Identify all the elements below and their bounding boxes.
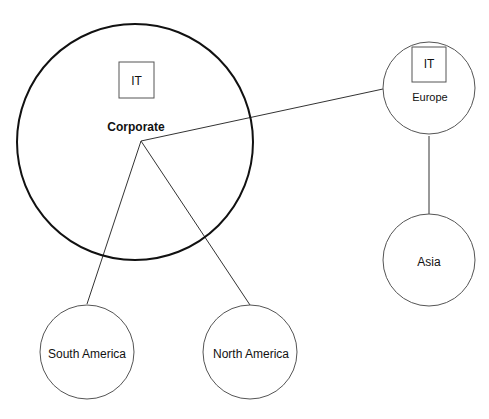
edge-corporate-europe [141, 89, 383, 141]
europe-it-label: IT [424, 57, 435, 71]
node-south-america[interactable]: South America [40, 305, 134, 399]
europe-label: Europe [412, 91, 447, 103]
org-diagram: IT Corporate IT Europe Asia South Americ… [0, 0, 489, 419]
node-corporate[interactable]: IT Corporate [17, 24, 253, 260]
south-america-label: South America [48, 347, 126, 361]
edge-corporate-south-america [87, 141, 141, 304]
asia-label: Asia [417, 255, 441, 269]
edge-corporate-north-america [141, 141, 250, 305]
corporate-it-label: IT [131, 74, 142, 88]
north-america-label: North America [213, 347, 289, 361]
node-north-america[interactable]: North America [203, 305, 297, 399]
node-asia[interactable]: Asia [383, 214, 475, 306]
corporate-label: Corporate [107, 120, 165, 134]
node-europe[interactable]: IT Europe [383, 42, 475, 134]
